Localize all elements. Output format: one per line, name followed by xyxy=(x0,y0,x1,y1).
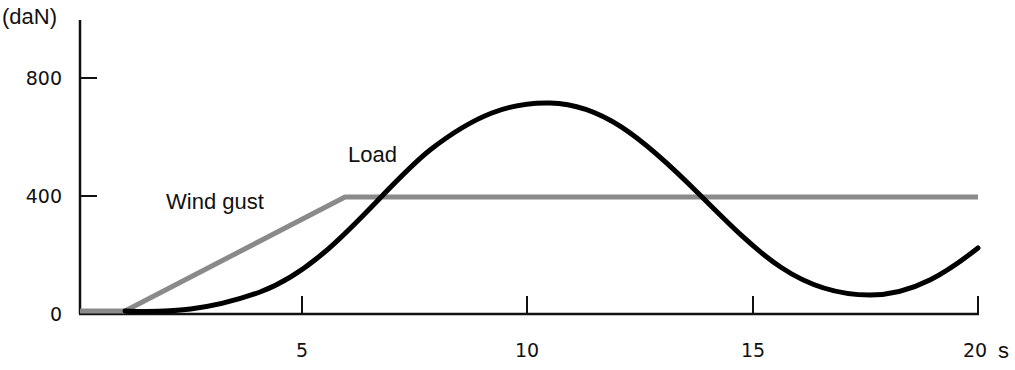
wind-gust-label: Wind gust xyxy=(166,189,264,214)
x-unit-label: s xyxy=(998,338,1009,363)
y-unit-label: (daN) xyxy=(2,4,57,29)
load-label: Load xyxy=(348,142,397,167)
y-tick-label-400: 400 xyxy=(26,185,62,207)
x-tick-label-15: 15 xyxy=(741,339,765,361)
x-tick-label-5: 5 xyxy=(296,339,308,361)
x-tick-label-10: 10 xyxy=(515,339,539,361)
load-vs-time-chart: (daN) 800 400 0 5 10 15 20 s Wind gust L… xyxy=(0,0,1015,370)
y-tick-label-0: 0 xyxy=(50,303,62,325)
y-tick-label-800: 800 xyxy=(26,67,62,89)
x-tick-label-20: 20 xyxy=(963,339,987,361)
